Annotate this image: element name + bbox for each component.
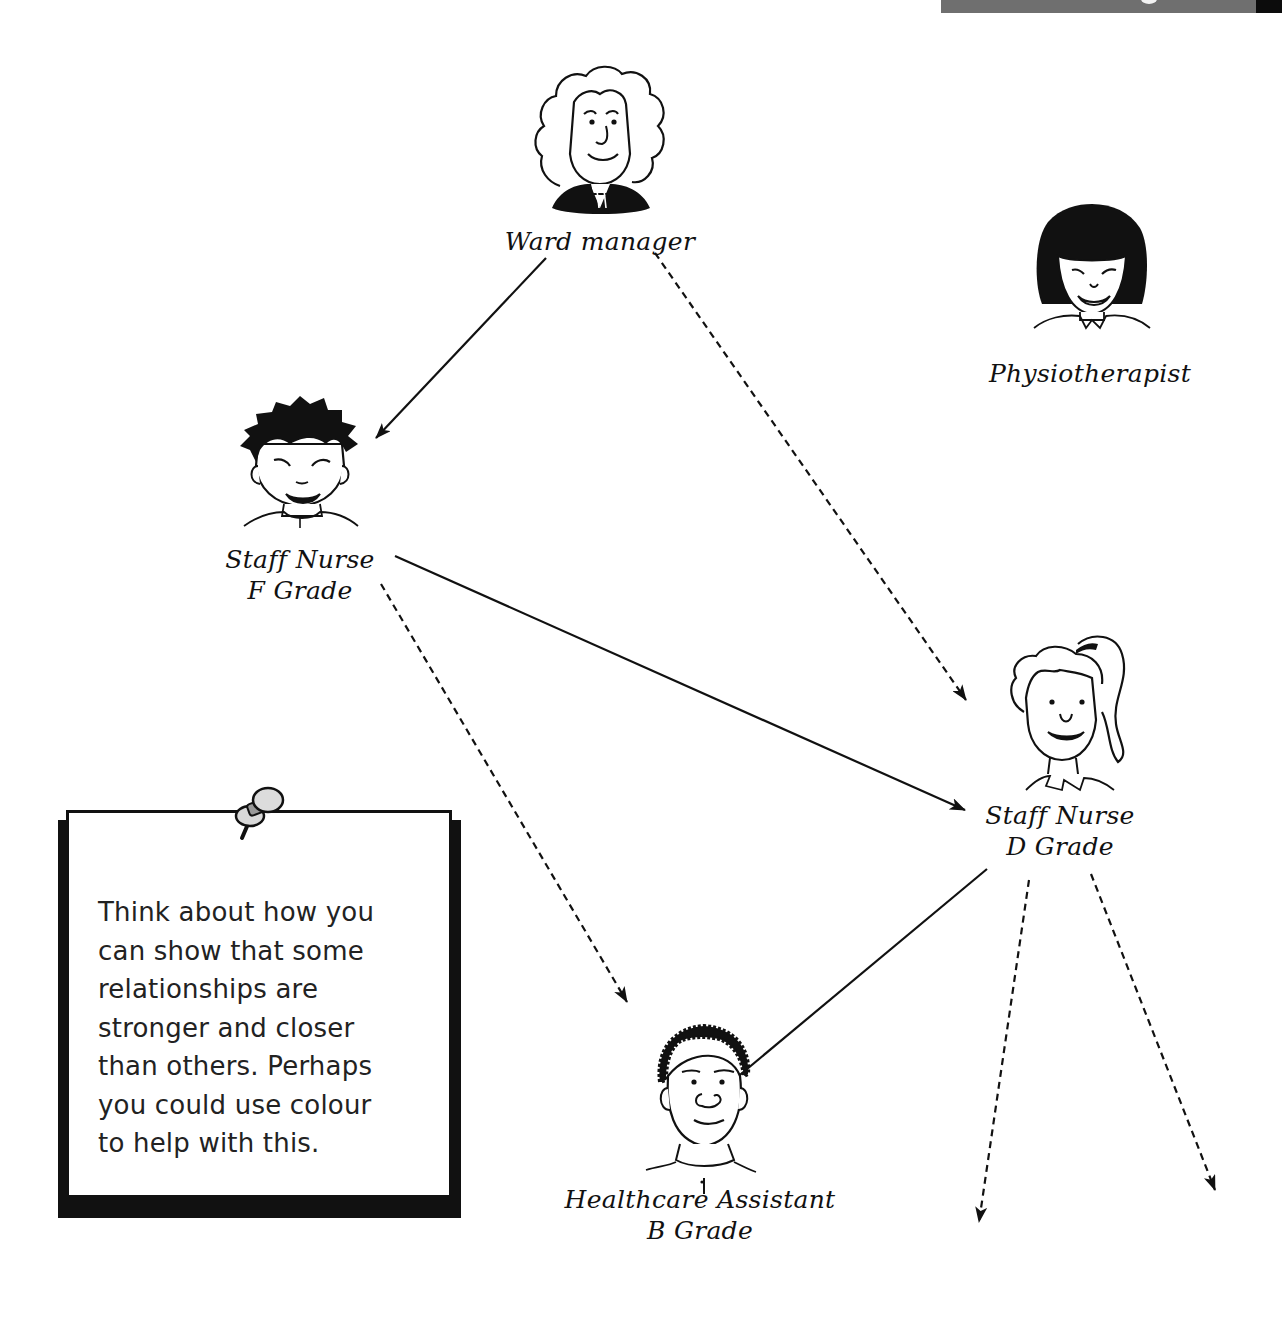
tip-note-text: Think about how you can show that some r… [98, 893, 438, 1163]
node-label: Ward manager [470, 226, 730, 257]
node-label: Staff Nurse D Grade [960, 800, 1160, 862]
node-label: Healthcare Assistant B Grade [530, 1184, 870, 1246]
man-spiky-hair-face-icon [230, 392, 370, 530]
edge-ward-manager-to-staff-nurse-f [376, 258, 546, 438]
woman-bob-hair-face-icon [1020, 200, 1160, 334]
node-label: Physiotherapist [960, 358, 1220, 389]
woman-curly-hair-face-icon [520, 62, 680, 218]
node-healthcare-assistant-b-grade: Healthcare Assistant B Grade [530, 1010, 870, 1246]
woman-ponytail-face-icon [980, 628, 1140, 794]
node-label: Staff Nurse F Grade [200, 544, 400, 606]
node-physiotherapist: Physiotherapist [960, 200, 1220, 389]
node-staff-nurse-f-grade: Staff Nurse F Grade [200, 392, 400, 606]
push-pin-icon [228, 782, 292, 844]
man-short-curly-hair-face-icon [610, 1010, 790, 1194]
edge-staff-nurse-d-to-offscreen-1 [979, 880, 1029, 1222]
edge-staff-nurse-d-to-offscreen-2 [1091, 874, 1215, 1190]
edge-ward-manager-to-staff-nurse-d [655, 253, 966, 700]
edge-staff-nurse-f-to-staff-nurse-d [395, 556, 965, 810]
node-staff-nurse-d-grade: Staff Nurse D Grade [960, 628, 1160, 862]
node-ward-manager: Ward manager [470, 62, 730, 257]
